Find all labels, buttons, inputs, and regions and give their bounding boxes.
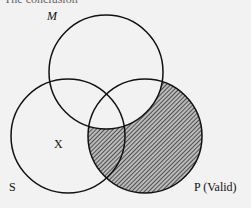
label-p-letter: P — [194, 180, 200, 194]
label-x: X — [54, 137, 63, 152]
venn-circles — [0, 0, 251, 208]
label-p: P (Valid) — [194, 180, 237, 195]
label-m: M — [47, 9, 57, 24]
label-p-suffix: (Valid) — [203, 180, 236, 194]
shaded-region — [0, 0, 251, 208]
venn-diagram: The conclusion M X S P (Valid) — [0, 0, 251, 208]
label-s: S — [9, 180, 16, 195]
